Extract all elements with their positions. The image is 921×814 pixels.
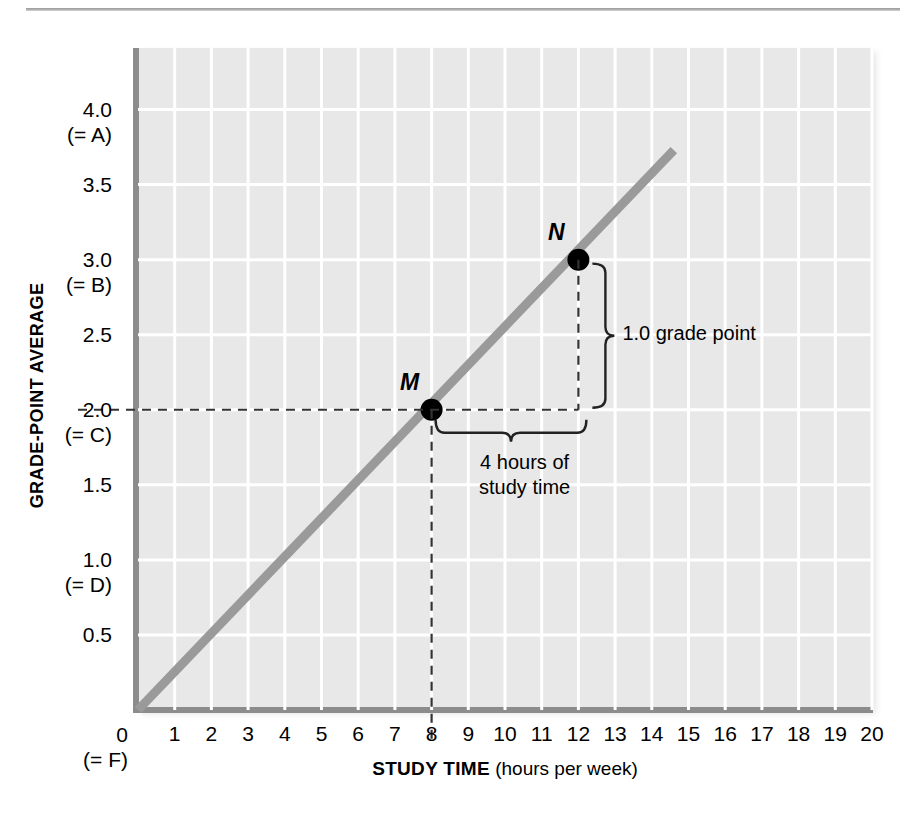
x-tick-label: 4	[279, 722, 291, 746]
y-tick-label: 3.0 (= B)	[0, 247, 126, 297]
x-tick-label: 14	[640, 722, 663, 746]
y-tick-label: 1.0 (= D)	[0, 547, 126, 597]
chart-figure: 4.0 (= A)3.53.0 (= B)2.52.0 (= C)1.51.0 …	[0, 0, 921, 814]
point-label-N: N	[548, 218, 565, 245]
x-axis-title-rest: (hours per week)	[490, 758, 638, 779]
x-tick-label: 8	[426, 722, 438, 746]
x-tick-label: 12	[567, 722, 590, 746]
x-tick-label: 9	[462, 722, 474, 746]
x-tick-label: 6	[352, 722, 364, 746]
y-tick-label: 2.0 (= C)	[0, 397, 126, 447]
x-tick-label: 15	[677, 722, 700, 746]
x-tick-label: 5	[316, 722, 328, 746]
x-tick-label: 20	[860, 722, 883, 746]
x-tick-label: 17	[750, 722, 773, 746]
y-tick-label: 1.5	[0, 472, 126, 497]
top-divider-rule	[26, 8, 900, 11]
x-axis-title-bold: STUDY TIME	[372, 758, 490, 779]
x-tick-label: 7	[389, 722, 401, 746]
annotation-rise-label: 1.0 grade point	[622, 321, 755, 346]
annotation-run-label: 4 hours of study time	[450, 450, 600, 500]
x-tick-label: 13	[603, 722, 626, 746]
x-tick-label: 2	[206, 722, 218, 746]
x-tick-label: 18	[787, 722, 810, 746]
x-axis-line	[133, 707, 873, 713]
y-tick-label: 2.5	[0, 322, 126, 347]
x-tick-label: 11	[531, 722, 553, 746]
x-tick-label: 10	[493, 722, 516, 746]
x-tick-label: 1	[169, 722, 181, 746]
x-axis-zero-label: 0 (= F)	[80, 722, 128, 772]
x-tick-label: 19	[824, 722, 847, 746]
point-label-M: M	[400, 368, 419, 395]
x-axis-title: STUDY TIME (hours per week)	[138, 758, 872, 780]
y-axis-title: GRADE-POINT AVERAGE	[27, 246, 48, 546]
y-tick-label: 4.0 (= A)	[0, 97, 126, 147]
y-tick-label: 0.5	[0, 622, 126, 647]
y-axis-tick-labels: 4.0 (= A)3.53.0 (= B)2.52.0 (= C)1.51.0 …	[0, 0, 126, 814]
y-tick-label: 3.5	[0, 172, 126, 197]
x-tick-label: 16	[714, 722, 737, 746]
x-tick-label: 3	[242, 722, 254, 746]
x-axis-tick-labels: 1234567891011121314151617181920	[138, 722, 872, 750]
plot-area	[138, 48, 872, 710]
y-axis-line	[133, 48, 139, 713]
